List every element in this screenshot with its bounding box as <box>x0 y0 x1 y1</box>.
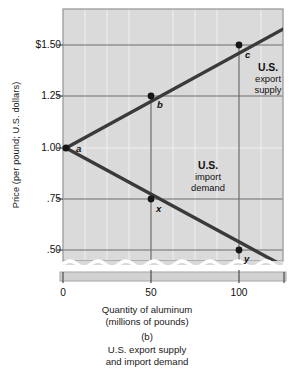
annotation-import-demand-line2: import <box>180 171 236 182</box>
xtick-label-100: 100 <box>219 288 259 298</box>
point-c <box>236 42 243 49</box>
annotation-export-supply-line1: U.S. <box>243 62 293 73</box>
annotation-export-supply-line3: supply <box>243 84 293 95</box>
point-y <box>236 247 243 254</box>
x-axis-title-line2: (millions of pounds) <box>0 316 294 328</box>
axis-break-wave <box>63 261 287 269</box>
annotation-import-demand-line3: demand <box>180 182 236 193</box>
ytick-label-0.50: .50 <box>3 245 61 255</box>
annotation-export-supply: U.S. export supply <box>243 62 293 96</box>
point-b <box>148 93 155 100</box>
xtick-label-0: 0 <box>43 288 83 298</box>
annotation-import-demand-line1: U.S. <box>180 160 236 171</box>
ytick-label-1.00: 1.00 <box>3 143 61 153</box>
annotation-export-supply-line2: export <box>243 73 293 84</box>
x-axis-title-line1: Quantity of aluminum <box>0 304 294 316</box>
ytick-label-1.25: 1.25 <box>3 91 61 101</box>
figure-caption-line1: U.S. export supply <box>0 344 294 356</box>
point-a <box>62 144 69 151</box>
ytick-label-1.50: $1.50 <box>3 40 61 50</box>
panel-letter: (b) <box>0 331 294 343</box>
point-label-c: c <box>245 50 250 60</box>
annotation-import-demand: U.S. import demand <box>180 160 236 194</box>
x-axis-bar <box>60 272 286 281</box>
point-label-b: b <box>157 100 163 110</box>
point-x <box>148 196 155 203</box>
xtick-label-50: 50 <box>131 288 171 298</box>
ytick-label-0.75: .75 <box>3 194 61 204</box>
figure-caption-line2: and import demand <box>0 356 294 368</box>
point-label-y: y <box>244 254 249 264</box>
point-label-x: x <box>156 204 161 214</box>
point-label-a: a <box>76 144 81 154</box>
